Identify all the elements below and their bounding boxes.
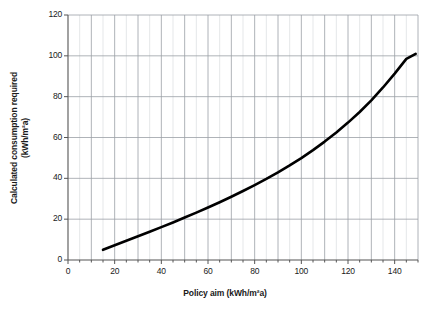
y-tick-label: 120 [28,9,62,19]
x-tick-label: 80 [240,266,270,276]
y-tick-label: 40 [28,172,62,182]
y-tick-label: 100 [28,50,62,60]
x-tick-label: 20 [100,266,130,276]
x-tick-label: 140 [380,266,410,276]
y-tick-label: 0 [28,254,62,264]
y-tick-label: 80 [28,91,62,101]
y-tick-label: 60 [28,132,62,142]
y-tick-label: 20 [28,213,62,223]
x-tick-label: 120 [333,266,363,276]
x-tick-label: 100 [286,266,316,276]
x-tick-label: 0 [53,266,83,276]
x-tick-label: 60 [193,266,223,276]
chart-figure: Calculated consumption required (kWh/m²a… [0,0,435,314]
x-tick-label: 40 [146,266,176,276]
